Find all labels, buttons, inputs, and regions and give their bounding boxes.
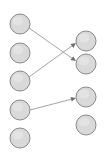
edge-line — [29, 45, 73, 77]
node-highlight — [79, 90, 90, 99]
node-highlight — [79, 34, 90, 43]
node-R2[interactable] — [76, 54, 96, 74]
edge-L3-R1[interactable] — [29, 43, 76, 77]
node-highlight — [13, 74, 24, 83]
node-highlight — [13, 131, 24, 140]
edge-group — [29, 28, 76, 110]
diagram-canvas — [0, 0, 105, 158]
node-highlight — [79, 57, 90, 66]
node-R1[interactable] — [76, 31, 96, 51]
arrowhead-icon — [71, 56, 76, 61]
node-L4[interactable] — [10, 100, 30, 120]
arrowhead-icon — [71, 97, 76, 102]
edge-L1-R2[interactable] — [29, 28, 76, 61]
node-L3[interactable] — [10, 71, 30, 91]
node-R4[interactable] — [76, 115, 96, 135]
node-highlight — [79, 118, 90, 127]
right-node-column — [76, 31, 96, 135]
edge-line — [29, 28, 73, 59]
node-L5[interactable] — [10, 128, 30, 148]
node-highlight — [13, 103, 24, 112]
node-L1[interactable] — [10, 14, 30, 34]
arrowhead-icon — [71, 43, 76, 48]
node-L2[interactable] — [10, 43, 30, 63]
left-node-column — [10, 14, 30, 148]
node-highlight — [13, 46, 24, 55]
node-highlight — [13, 17, 24, 26]
bipartite-graph — [0, 0, 105, 158]
edge-line — [30, 99, 72, 110]
node-R3[interactable] — [76, 87, 96, 107]
edge-L4-R3[interactable] — [30, 97, 76, 110]
